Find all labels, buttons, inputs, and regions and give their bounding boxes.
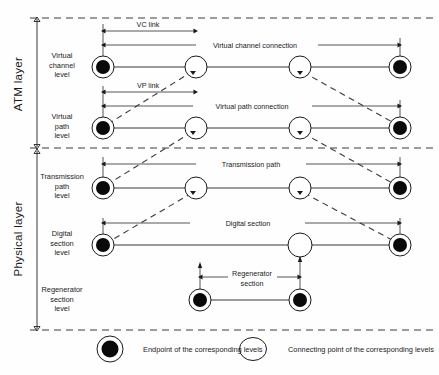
node-ds-endpoint-right [389,234,411,256]
row-label-line-1: Virtual [52,112,73,121]
node-tp-connecting-point-2 [185,177,207,199]
row-label-virtual-channel-level: Virtual channel level [49,51,75,79]
physical-layer-bracket [34,149,40,331]
atm-layer-label: ATM layer [12,57,24,111]
rs-stem-left-arrowhead [198,262,202,268]
vc-link-arrow [101,29,198,34]
row-label-line-2: path [55,122,69,131]
vp-link-arrow [101,90,198,95]
row-label-regenerator-section-level: Regenerator section level [41,285,83,313]
node-vp-connecting-point-2 [185,117,207,139]
node-vp-connecting-point-3 [289,117,311,139]
node-vp-endpoint-left [92,117,114,139]
row-label-line-1: Digital [52,229,73,238]
vp-link-label: VP link [137,81,160,90]
row-label-line-1: Virtual [52,51,73,60]
row-label-transmission-path-level: Transmission path level [40,172,84,200]
row-label-line-3: level [54,191,70,200]
row-label-line-1: Transmission [40,172,84,181]
dashed-link-tp2-ds1 [110,193,192,241]
node-vp-endpoint-right [389,117,411,139]
diagram-canvas: ATM layer Physical layer Virtual channel… [0,0,439,375]
row-label-line-3: level [54,131,70,140]
node-rs-endpoint-right [289,289,311,311]
dashed-link-vp3-tp4 [303,133,394,184]
row-label-line-2: channel [49,61,75,70]
node-vc-connecting-point-2 [185,56,207,78]
row-label-line-2: path [55,182,69,191]
regenerator-section-label-line-1: Regenerator [232,269,273,278]
transmission-path-label: Transmission path [222,160,280,169]
row-label-line-3: level [54,70,70,79]
virtual-path-connection-label: Virtual path connection [216,102,289,111]
row-label-line-2: section [50,295,73,304]
dashed-link-vc3-vp4 [303,72,394,123]
row-label-digital-section-level: Digital section level [50,229,73,257]
dashed-link-vc2-vp1 [108,71,193,124]
row-label-virtual-path-level: Virtual path level [52,112,73,140]
dashed-link-vp2-tp1 [108,132,192,184]
digital-section-label: Digital section [226,219,271,228]
legend-connecting-point-text: Connecting point of the corresponding le… [288,345,434,354]
regenerator-section-label-line-2: section [241,279,264,288]
dashed-link-tp3-ds3 [304,193,394,241]
node-rs-endpoint-left [189,289,211,311]
node-tp-endpoint-right [389,177,411,199]
node-tp-endpoint-left [92,177,114,199]
atm-layer-bracket [34,17,40,149]
vc-link-label: VC link [137,20,160,29]
legend-endpoint-text: Endpoint of the corresponding levels [143,345,263,354]
node-vc-endpoint-right [389,56,411,78]
node-ds-endpoint-left [92,234,114,256]
virtual-channel-connection-label: Virtual channel connection [213,41,297,50]
atm-layer-model-diagram: ATM layer Physical layer Virtual channel… [0,0,439,375]
row-label-line-3: level [54,304,70,313]
legend-endpoint-symbol [97,336,123,362]
node-ds-connecting-point [288,233,312,257]
row-label-line-3: level [54,248,70,257]
row-label-line-1: Regenerator [41,285,83,294]
row-label-line-2: section [50,239,73,248]
physical-layer-label: Physical layer [12,201,24,276]
node-vc-endpoint-left [92,56,114,78]
node-tp-connecting-point-3 [289,177,311,199]
